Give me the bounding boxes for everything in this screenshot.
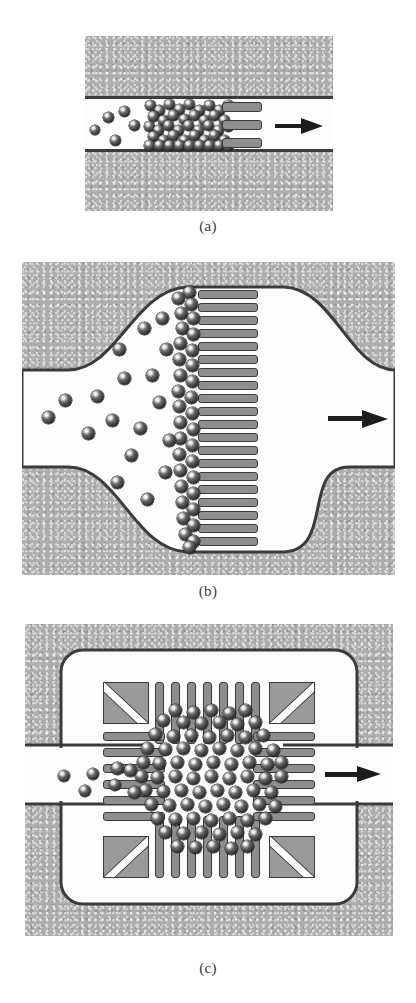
pillar-comb-b [198,288,258,550]
free-bead-a-1 [103,112,114,123]
free-bead-b-5 [118,372,131,385]
free-bead-b-7 [146,369,159,382]
panel-a [85,36,333,211]
substrate-top-a [85,36,333,98]
packed-bead-mass-c [135,704,289,856]
pillar-a-3 [222,138,262,148]
free-bead-b-18 [156,312,169,325]
free-bead-b-8 [153,396,166,409]
free-bead-a-2 [90,125,100,135]
free-bead-b-16 [163,434,176,447]
free-bead-b-11 [113,343,126,356]
substrate-bottom-a [85,152,333,211]
flow-arrow-a [275,118,325,134]
free-bead-c-6 [79,785,91,797]
panel-b [22,262,395,575]
free-bead-b-9 [160,343,173,356]
free-bead-a-3 [119,106,130,117]
free-bead-c-1 [124,764,137,777]
pillar-a-2 [222,120,262,130]
caption-b: (b) [0,583,416,600]
figure-root: (a) [0,0,416,1003]
packed-bead-layer-b [171,286,203,552]
free-bead-a-5 [110,135,121,146]
caption-c: (c) [0,960,416,977]
free-bead-a-4 [129,120,140,131]
free-bead-c-7 [109,779,121,791]
free-bead-c-4 [58,770,70,782]
free-bead-b-13 [111,476,124,489]
free-bead-b-17 [82,427,95,440]
panel-c [25,624,393,936]
free-bead-b-14 [141,493,154,506]
free-bead-b-15 [159,466,172,479]
free-bead-c-3 [111,762,124,775]
caption-a: (a) [0,218,416,235]
packed-bead-bed-a [144,99,234,151]
free-bead-b-6 [134,422,147,435]
free-bead-c-5 [87,768,99,780]
flow-arrow-c [325,766,387,783]
free-bead-b-3 [91,390,104,403]
free-bead-b-12 [125,449,138,462]
pillar-a-1 [222,102,262,112]
free-bead-b-1 [42,411,55,424]
flow-arrow-b [328,410,392,428]
free-bead-c-2 [128,786,141,799]
free-bead-b-4 [106,414,119,427]
free-bead-b-2 [59,394,72,407]
free-bead-b-10 [138,322,151,335]
